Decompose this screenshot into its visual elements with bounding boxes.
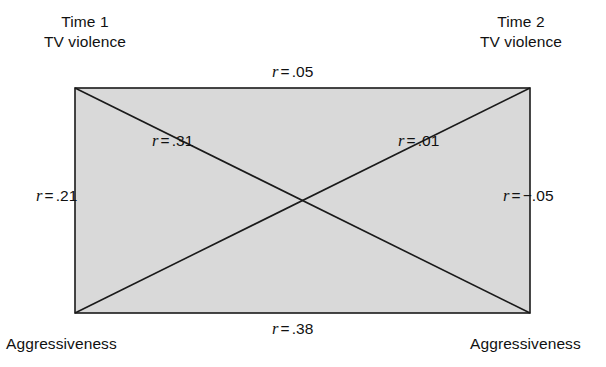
cross-lagged-panel-diagram: Time 1TV violence Time 2TV violence Aggr…	[0, 0, 606, 367]
panel-graphic	[0, 0, 606, 367]
equals-diagonal-bl-tr: =	[405, 132, 418, 149]
correlation-value-diagonal-tl-br: .31	[172, 132, 194, 149]
correlation-label-right: r=−.05	[503, 186, 554, 206]
equals-left: =	[43, 187, 56, 204]
correlation-label-diagonal-tl-br: r=.31	[152, 131, 194, 151]
correlation-label-left: r=.21	[36, 186, 78, 206]
correlation-value-left: .21	[56, 187, 78, 204]
r-symbol-left: r	[36, 186, 43, 205]
correlation-label-bottom: r=.38	[272, 319, 314, 339]
correlation-value-right: −.05	[523, 187, 554, 204]
equals-top: =	[279, 63, 292, 80]
correlation-value-top: .05	[292, 63, 314, 80]
correlation-value-diagonal-bl-tr: .01	[418, 132, 440, 149]
equals-bottom: =	[279, 320, 292, 337]
correlation-label-top: r=.05	[272, 62, 314, 82]
equals-diagonal-tl-br: =	[159, 132, 172, 149]
r-symbol-diagonal-bl-tr: r	[398, 131, 405, 150]
correlation-value-bottom: .38	[292, 320, 314, 337]
r-symbol-bottom: r	[272, 319, 279, 338]
r-symbol-top: r	[272, 62, 279, 81]
correlation-label-diagonal-bl-tr: r=.01	[398, 131, 440, 151]
equals-right: =	[510, 187, 523, 204]
r-symbol-diagonal-tl-br: r	[152, 131, 159, 150]
r-symbol-right: r	[503, 186, 510, 205]
